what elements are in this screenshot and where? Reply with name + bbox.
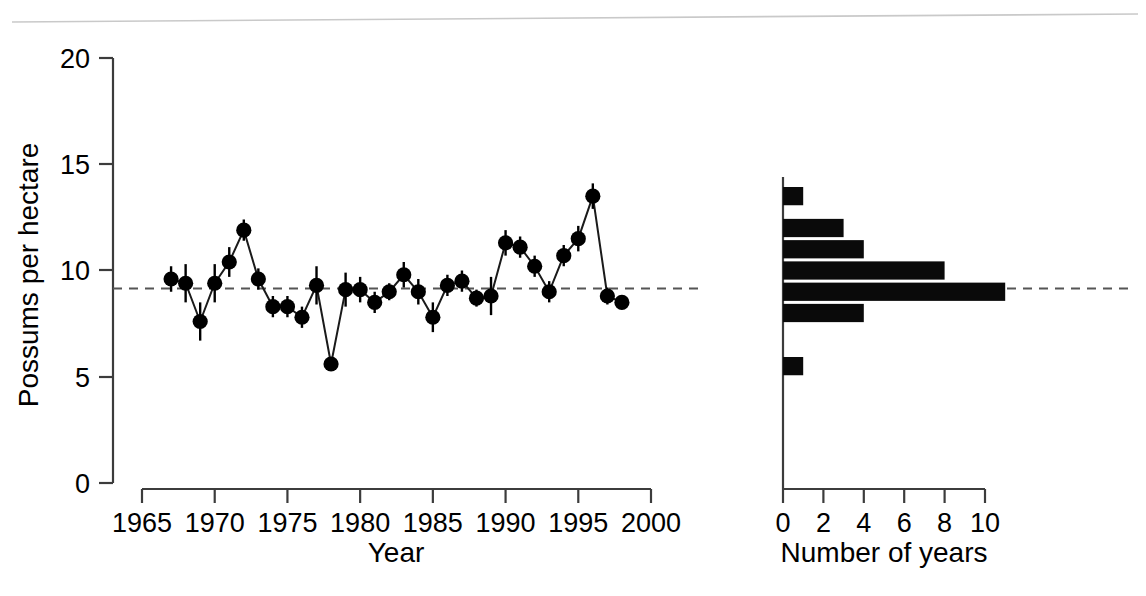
hist-x-tick-label-10: 10 <box>970 508 1000 538</box>
data-point <box>382 284 397 299</box>
data-point <box>585 189 600 204</box>
hist-x-tick-label-2: 2 <box>816 508 831 538</box>
data-point <box>222 254 237 269</box>
x-tick-label-1995: 1995 <box>548 508 608 538</box>
data-point <box>251 271 266 286</box>
data-point <box>294 310 309 325</box>
data-point <box>498 235 513 250</box>
histogram-bar <box>783 304 864 322</box>
data-point <box>469 291 484 306</box>
possum-density-figure: 20 15 10 5 0 Possums per hectare 1965197… <box>0 0 1146 596</box>
data-point <box>353 282 368 297</box>
data-point <box>338 282 353 297</box>
hist-x-tick-label-0: 0 <box>775 508 790 538</box>
x-tick-label-1965: 1965 <box>112 508 172 538</box>
x-tick-label-1980: 1980 <box>330 508 390 538</box>
y-tick-label-10: 10 <box>60 256 90 286</box>
x-tick-label-1970: 1970 <box>185 508 245 538</box>
data-point <box>425 310 440 325</box>
y-tick-label-5: 5 <box>75 363 90 393</box>
data-point <box>513 240 528 255</box>
histogram-bar <box>783 261 945 279</box>
data-point <box>411 284 426 299</box>
data-point <box>280 299 295 314</box>
histogram-bar <box>783 240 864 258</box>
data-point <box>440 278 455 293</box>
hist-x-tick-label-6: 6 <box>897 508 912 538</box>
data-point <box>323 356 338 371</box>
data-point <box>207 276 222 291</box>
hist-x-tick-label-4: 4 <box>856 508 871 538</box>
y-tick-label-0: 0 <box>75 469 90 499</box>
histogram-bar <box>783 187 803 205</box>
histogram-x-axis-title: Number of years <box>781 537 988 568</box>
data-point <box>265 299 280 314</box>
figure-container: 20 15 10 5 0 Possums per hectare 1965197… <box>0 0 1146 596</box>
data-point <box>193 314 208 329</box>
data-point <box>236 223 251 238</box>
y-axis-title: Possums per hectare <box>13 143 44 408</box>
data-point <box>309 278 324 293</box>
y-tick-label-15: 15 <box>60 150 90 180</box>
data-point <box>600 288 615 303</box>
data-point <box>483 288 498 303</box>
data-point <box>367 295 382 310</box>
x-axis-title: Year <box>368 537 425 568</box>
x-tick-label-1975: 1975 <box>257 508 317 538</box>
x-tick-label-2000: 2000 <box>621 508 681 538</box>
y-tick-label-20: 20 <box>60 44 90 74</box>
data-point <box>178 276 193 291</box>
data-point <box>527 259 542 274</box>
data-point <box>542 284 557 299</box>
data-point <box>396 267 411 282</box>
histogram-bar <box>783 283 1005 301</box>
data-point <box>571 231 586 246</box>
histogram-bar <box>783 219 844 237</box>
x-tick-label-1990: 1990 <box>476 508 536 538</box>
data-point <box>614 295 629 310</box>
data-point <box>454 274 469 289</box>
x-tick-label-1985: 1985 <box>403 508 463 538</box>
histogram-bar <box>783 357 803 375</box>
data-point <box>163 271 178 286</box>
data-point <box>556 248 571 263</box>
hist-x-tick-label-8: 8 <box>937 508 952 538</box>
